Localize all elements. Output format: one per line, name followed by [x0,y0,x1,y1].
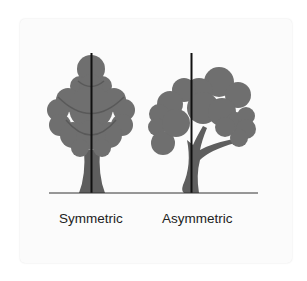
asymmetric-label: Asymmetric [162,211,233,226]
asymmetric-tree [148,67,256,193]
symmetric-label: Symmetric [59,211,123,226]
tree-symmetry-illustration [0,0,307,281]
